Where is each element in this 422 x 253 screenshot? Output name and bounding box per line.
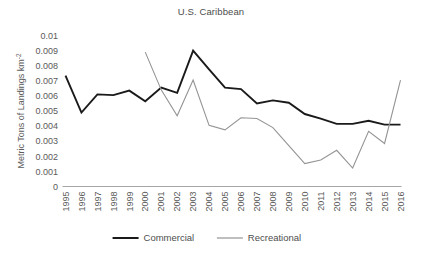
y-tick-label: 0 xyxy=(53,182,58,192)
y-axis-title: Metric Tons of Landings km-2 xyxy=(15,53,26,169)
y-tick-label: 0.002 xyxy=(35,152,58,162)
x-tick-label: 1995 xyxy=(61,192,71,212)
y-tick-label: 0.009 xyxy=(35,46,58,56)
x-tick-label: 1999 xyxy=(125,192,135,212)
x-tick-label: 2001 xyxy=(156,192,166,212)
x-tick-label: 1997 xyxy=(93,192,103,212)
y-tick-label: 0.006 xyxy=(35,91,58,101)
chart-figure: U.S. Caribbean Metric Tons of Landings k… xyxy=(0,0,422,253)
legend-label-commercial: Commercial xyxy=(144,232,195,243)
x-tick-label: 2014 xyxy=(364,192,374,212)
series-line-recreational xyxy=(145,52,400,168)
y-tick-label: 0.005 xyxy=(35,106,58,116)
x-tick-label: 2011 xyxy=(316,192,326,211)
y-tick-label: 0.01 xyxy=(40,31,58,41)
x-tick-label: 2002 xyxy=(172,192,182,212)
x-tick-label: 2008 xyxy=(268,192,278,212)
legend-label-recreational: Recreational xyxy=(248,232,301,243)
y-axis-tick-labels: 00.0010.0020.0030.0040.0050.0060.0070.00… xyxy=(35,31,58,192)
x-tick-label: 2009 xyxy=(284,192,294,212)
x-tick-label: 2004 xyxy=(204,192,214,212)
y-tick-label: 0.001 xyxy=(35,167,58,177)
x-tick-label: 2007 xyxy=(252,192,262,212)
x-tick-label: 1998 xyxy=(109,192,119,212)
chart-legend: CommercialRecreational xyxy=(113,232,302,243)
x-tick-label: 2003 xyxy=(188,192,198,212)
x-tick-label: 2010 xyxy=(300,192,310,212)
x-tick-label: 2006 xyxy=(236,192,246,212)
y-tick-label: 0.003 xyxy=(35,136,58,146)
x-tick-label: 2015 xyxy=(380,192,390,212)
x-tick-label: 2000 xyxy=(140,192,150,212)
y-tick-label: 0.008 xyxy=(35,61,58,71)
series-line-commercial xyxy=(66,51,401,125)
y-axis-title-text: Metric Tons of Landings km-2 xyxy=(15,53,26,169)
x-tick-label: 2005 xyxy=(220,192,230,212)
data-series-lines xyxy=(66,51,401,168)
x-tick-label: 2016 xyxy=(396,192,406,212)
x-tick-label: 2012 xyxy=(332,192,342,212)
x-tick-label: 2013 xyxy=(348,192,358,212)
y-tick-label: 0.007 xyxy=(35,76,58,86)
y-tick-label: 0.004 xyxy=(35,121,58,131)
x-axis-tick-labels: 1995199619971998199920002001200220032004… xyxy=(61,192,406,212)
line-chart-plot: Metric Tons of Landings km-2 00.0010.002… xyxy=(0,0,422,253)
x-tick-label: 1996 xyxy=(77,192,87,212)
